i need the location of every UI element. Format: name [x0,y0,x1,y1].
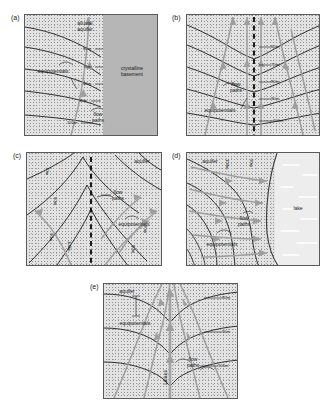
panel-d: aquifer lake flow paths equipotentials 1… [186,152,320,266]
contour-label: 80m [83,81,91,86]
contour-label: 90m [49,233,54,241]
contour-label: 60m [271,44,279,49]
contour-label: 70m [271,62,279,67]
label-flow-paths-line2: paths [231,221,257,227]
label-equipotentials: equipotentials [29,68,77,74]
label-flow-paths-line2: paths [223,87,249,93]
label-flow-paths-line2: paths [105,195,131,201]
label-equipotentials: equipotentials [109,221,159,227]
panel-e: aquifer equipotentials flow paths stream… [103,283,238,399]
panel-a-label: (a) [11,14,20,21]
contour-label: 70m [45,167,50,175]
label-equipotentials: equipotentials [197,241,247,247]
contour-label: 90m [79,98,87,103]
panel-b-flownet [187,15,320,136]
panel-b: equipotentials flow paths 60m 70m 80m 90… [186,14,320,136]
panel-c: aquifer flow paths equipotentials 70m 80… [26,152,162,266]
panel-d-label: (d) [172,152,181,159]
label-aquifer: aquifer [125,158,159,164]
contour-label: 90m [249,159,254,167]
label-flow-paths-line2: paths [180,362,206,368]
contour-label: 80m [271,79,279,84]
contour-label: 100m [225,159,230,169]
contour-label: 100m [218,363,228,368]
contour-label: 100m [273,118,283,123]
contour-label: 80m [222,295,230,300]
panel-e-flownet [104,284,238,399]
panel-a: alluvial aquifer crystalline basement eq… [24,14,158,136]
panel-b-label: (b) [172,14,181,21]
contour-label: 90m [271,96,279,101]
label-lake: lake [283,205,313,211]
label-crystalline-basement-line2: basement [107,71,157,77]
label-equipotentials: equipotentials [195,107,245,113]
panel-c-label: (c) [13,152,21,159]
contour-label: 100m [67,120,77,125]
panel-e-label: (e) [90,283,99,290]
contour-label: 100m [67,241,72,251]
contour-label: 90m [143,225,148,233]
figure-groundwater-flow-nets: alluvial aquifer crystalline basement eq… [0,0,324,408]
label-alluvial-aquifer-line2: aquifer [63,26,107,32]
contour-label: 70m [83,64,91,69]
contour-label: 90m [222,329,230,334]
label-stream: stream [163,370,169,385]
label-flow-paths-line2: paths [85,117,111,123]
label-aquifer: aquifer [110,288,144,294]
contour-label: 80m [53,197,58,205]
contour-label: 60m [83,46,91,51]
label-aquifer: aquifer [193,158,227,164]
contour-label: 80m [131,245,136,253]
label-equipotentials: equipotentials [108,320,162,326]
